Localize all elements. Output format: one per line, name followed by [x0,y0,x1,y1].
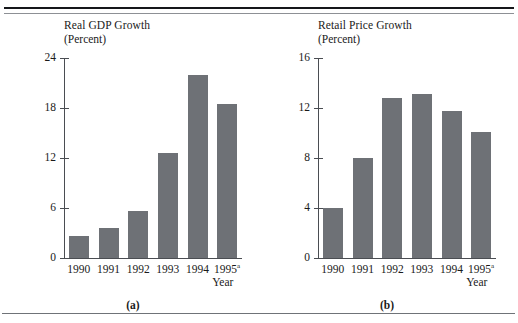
panel-a-letter: (a) [8,299,258,311]
panel-a-x-axis [64,258,242,259]
y-tick-label: 18 [28,102,56,114]
panel-b-x-axis [318,258,496,259]
x-tick-label-1995: 1995a [464,263,498,276]
bar-1990 [323,208,343,258]
panel-b-letter: (b) [262,299,512,311]
bar-1995 [217,104,237,258]
bar-1990 [69,236,89,258]
y-tick-mark [314,258,323,259]
y-tick-label: 12 [28,152,56,164]
y-tick-label: 0 [282,252,310,264]
bar-1994 [442,111,462,259]
panel-a-plot: 06121824 199019911992199319941995a Year [8,18,258,308]
y-tick-label: 12 [282,102,310,114]
y-tick-label: 0 [28,252,56,264]
panel-a-axis-title: Year [212,276,233,289]
figure-frame: Real GDP Growth (Percent) 06121824 19901… [0,0,518,323]
y-tick-label: 4 [282,202,310,214]
bar-1992 [382,98,402,258]
top-rule-thin [4,13,514,14]
y-tick-mark [60,258,69,259]
bar-1995 [471,132,491,258]
bar-1992 [128,211,148,258]
chart-panel-b: Retail Price Growth (Percent) 0481216 19… [262,18,512,308]
bar-1994 [188,75,208,258]
y-tick-label: 24 [28,52,56,64]
bottom-rule [2,313,515,314]
panel-b-plot: 0481216 199019911992199319941995a Year [262,18,512,308]
panel-b-bars [318,58,496,258]
bar-1991 [99,228,119,258]
y-tick-label: 16 [282,52,310,64]
bar-1993 [158,153,178,258]
x-tick-label-1995: 1995a [210,263,244,276]
y-tick-label: 8 [282,152,310,164]
bar-1993 [412,94,432,258]
chart-panel-a: Real GDP Growth (Percent) 06121824 19901… [8,18,258,308]
bar-1991 [353,158,373,258]
panel-b-axis-title: Year [466,276,487,289]
panel-a-bars [64,58,242,258]
y-tick-label: 6 [28,202,56,214]
top-rule-thick [4,7,514,9]
